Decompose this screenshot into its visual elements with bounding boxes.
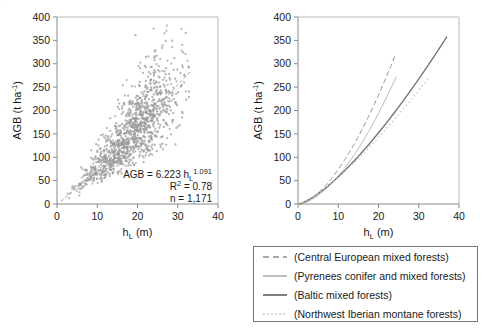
figure-container: ' 050100150200250300350400010203040hL (m… (0, 0, 482, 329)
curves-y-tick-label: 0 (285, 198, 291, 210)
scatter-panel: 050100150200250300350400010203040hL (m)A… (0, 0, 241, 240)
curve-series-2 (298, 37, 447, 204)
scatter-y-tick-label: 200 (32, 104, 50, 116)
curves-y-tick-label: 250 (273, 81, 291, 93)
sample-size-annotation: n = 1,171 (170, 193, 212, 204)
curves-y-tick-label: 350 (273, 34, 291, 46)
list-item: (Pyrenees conifer and mixed forests) (254, 266, 477, 285)
scatter-y-tick-label: 0 (44, 198, 50, 210)
list-item: (Baltic mixed forests) (254, 285, 477, 304)
scatter-x-axis-title: hL (m) (123, 226, 153, 241)
curves-y-tick-label: 150 (273, 128, 291, 140)
list-item: (Northwest Iberian montane forests) (254, 304, 477, 323)
curves-x-axis-title: hL (m) (364, 226, 394, 241)
scatter-y-tick-label: 350 (32, 34, 50, 46)
legend-box: (Central European mixed forests) (Pyrene… (253, 246, 478, 322)
curves-x-tick-label: 20 (373, 210, 385, 222)
scatter-x-tick-label: 30 (172, 210, 184, 222)
scatter-y-tick-label: 400 (32, 11, 50, 23)
legend-item-label: (Pyrenees conifer and mixed forests) (294, 270, 466, 282)
curves-y-tick-label: 50 (279, 174, 291, 186)
legend-item-label: (Baltic mixed forests) (294, 289, 392, 301)
scatter-y-axis-title: AGB (t ha-1) (10, 81, 23, 140)
scatter-y-tick-label: 300 (32, 57, 50, 69)
curves-y-tick-label: 400 (273, 11, 291, 23)
curves-x-tick-label: 10 (332, 210, 344, 222)
curves-y-axis-title: AGB (t ha-1) (251, 81, 264, 140)
curve-series-1 (298, 77, 396, 204)
r-squared-annotation: R2 = 0.78 (170, 179, 213, 192)
scatter-y-tick-label: 150 (32, 128, 50, 140)
thin-solid-line-swatch (262, 270, 288, 282)
scatter-y-tick-label: 250 (32, 81, 50, 93)
thick-solid-line-swatch (262, 289, 288, 301)
curves-x-tick-label: 30 (413, 210, 425, 222)
dashed-line-swatch (262, 251, 288, 263)
legend-item-label: (Northwest Iberian montane forests) (294, 308, 462, 320)
legend-item-label: (Central European mixed forests) (294, 251, 449, 263)
curves-plot-svg: 050100150200250300350400010203040hL (m)A… (240, 0, 482, 240)
curves-x-tick-label: 0 (295, 210, 301, 222)
curves-panel: 050100150200250300350400010203040hL (m)A… (240, 0, 482, 240)
dotted-line-swatch (262, 308, 288, 320)
scatter-x-tick-label: 10 (91, 210, 103, 222)
scatter-y-tick-label: 50 (38, 174, 50, 186)
curves-x-tick-label: 40 (453, 210, 465, 222)
scatter-x-tick-label: 20 (132, 210, 144, 222)
scatter-x-tick-label: 0 (54, 210, 60, 222)
curves-y-tick-label: 100 (273, 151, 291, 163)
scatter-x-tick-label: 40 (212, 210, 224, 222)
curves-y-tick-label: 200 (273, 104, 291, 116)
curves-y-tick-label: 300 (273, 57, 291, 69)
curves-plot-frame (298, 17, 459, 204)
scatter-y-tick-label: 100 (32, 151, 50, 163)
scatter-plot-svg: 050100150200250300350400010203040hL (m)A… (0, 0, 241, 240)
list-item: (Central European mixed forests) (254, 247, 477, 266)
